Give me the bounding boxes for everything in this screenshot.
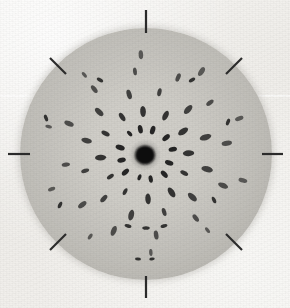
film-grain-overlay-diagonal <box>0 0 290 308</box>
laue-diffraction-figure: Laue X-ray diffraction photograph Single… <box>0 0 290 308</box>
